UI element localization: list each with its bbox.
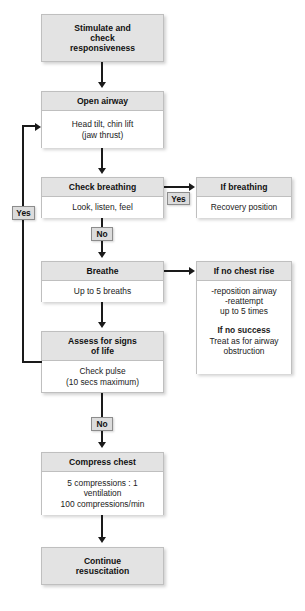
node-if-no-chest-rise-body: -reposition airway -reattempt up to 5 ti… (197, 281, 291, 374)
node-assess-signs-header: Assess for signs of life (42, 332, 163, 361)
node-if-no-chest-rise-header: If no chest rise (197, 262, 291, 281)
node-assess-signs-header-line1: Assess for signs (68, 336, 137, 346)
node-stimulate-text: Stimulate and check responsiveness (66, 23, 139, 54)
arrowhead-assess-signs (98, 322, 106, 328)
connector-open-airway-to-check-breathing (101, 148, 103, 170)
loop-segment-bottom (22, 361, 42, 363)
node-assess-signs-header-line2: of life (91, 346, 114, 356)
node-if-breathing-header: If breathing (197, 178, 291, 197)
node-open-airway-body: Head tilt, chin lift (jaw thrust) (42, 111, 163, 148)
connector-breathe-to-assess-signs (101, 302, 103, 324)
node-if-no-chest-rise[interactable]: If no chest rise -reposition airway -rea… (196, 261, 292, 374)
no-success-actions: If no success Treat as for airway obstru… (197, 325, 291, 356)
node-check-breathing-line1: Look, listen, feel (72, 202, 133, 212)
node-check-breathing-header: Check breathing (42, 178, 163, 197)
connector-assess-signs-to-compress-upper (101, 393, 103, 403)
node-breathe-header: Breathe (42, 262, 163, 281)
loop-segment-top (22, 125, 36, 127)
node-stimulate-line3: responsiveness (70, 43, 135, 53)
edge-label-no-signs-of-life: No (91, 417, 113, 431)
node-open-airway-line2: (jaw thrust) (82, 130, 123, 140)
no-chest-rise-line3: up to 5 times (220, 306, 268, 316)
node-continue-text: Continue resuscitation (76, 556, 130, 577)
node-open-airway-line1: Head tilt, chin lift (72, 119, 133, 129)
loop-segment-vertical (22, 125, 24, 363)
node-compress-chest-line3: 100 compressions/min (61, 499, 145, 509)
arrowhead-loop-to-open-airway (35, 123, 41, 131)
edge-label-no-breathing: No (91, 227, 113, 241)
node-if-breathing[interactable]: If breathing Recovery position (196, 177, 292, 218)
node-open-airway-header: Open airway (42, 92, 163, 111)
no-chest-rise-actions: -reposition airway -reattempt up to 5 ti… (197, 286, 291, 316)
node-breathe[interactable]: Breathe Up to 5 breaths (41, 261, 164, 302)
no-success-line2: obstruction (224, 346, 265, 356)
no-success-line1: Treat as for airway (209, 336, 278, 346)
arrowhead-check-breathing (98, 168, 106, 174)
connector-stimulate-to-open-airway (101, 62, 103, 84)
node-compress-chest-body: 5 compressions : 1 ventilation 100 compr… (42, 472, 163, 515)
arrowhead-open-airway (98, 82, 106, 88)
arrowhead-if-no-chest-rise (189, 267, 195, 275)
arrowhead-breathe (98, 252, 106, 258)
no-chest-rise-line1: -reposition airway (211, 286, 277, 296)
no-chest-rise-line2: -reattempt (225, 296, 263, 306)
node-stimulate-line1: Stimulate and (74, 23, 130, 33)
node-assess-signs-line1: Check pulse (79, 366, 125, 376)
arrowhead-continue-resuscitation (98, 537, 106, 543)
node-breathe-body: Up to 5 breaths (42, 281, 163, 302)
node-compress-chest-line2: ventilation (84, 488, 122, 498)
node-stimulate-line2: check (90, 33, 114, 43)
node-if-breathing-line1: Recovery position (211, 202, 278, 212)
node-assess-signs-body: Check pulse (10 secs maximum) (42, 361, 163, 392)
flowchart-canvas: Stimulate and check responsiveness Open … (0, 0, 305, 611)
node-breathe-line1: Up to 5 breaths (74, 286, 131, 296)
no-success-subheader: If no success (197, 325, 291, 335)
node-compress-chest[interactable]: Compress chest 5 compressions : 1 ventil… (41, 452, 164, 515)
edge-label-yes-signs-of-life: Yes (12, 206, 35, 220)
arrowhead-if-breathing (189, 183, 195, 191)
node-if-breathing-body: Recovery position (197, 197, 291, 218)
node-check-breathing[interactable]: Check breathing Look, listen, feel (41, 177, 164, 218)
connector-breathe-to-if-no-chest-rise (164, 270, 190, 272)
node-stimulate-check-responsiveness[interactable]: Stimulate and check responsiveness (41, 14, 164, 62)
node-continue-line2: resuscitation (76, 566, 130, 576)
node-assess-signs-of-life[interactable]: Assess for signs of life Check pulse (10… (41, 331, 164, 393)
node-assess-signs-line2: (10 secs maximum) (66, 377, 139, 387)
node-open-airway[interactable]: Open airway Head tilt, chin lift (jaw th… (41, 91, 164, 148)
connector-compress-to-continue (101, 515, 103, 539)
node-compress-chest-header: Compress chest (42, 453, 163, 472)
connector-check-breathing-to-if-breathing (164, 186, 190, 188)
node-compress-chest-line1: 5 compressions : 1 (67, 478, 137, 488)
connector-assess-signs-to-compress-mid (101, 403, 103, 417)
node-continue-resuscitation[interactable]: Continue resuscitation (41, 547, 164, 585)
edge-label-yes-breathing: Yes (167, 192, 190, 205)
node-check-breathing-body: Look, listen, feel (42, 197, 163, 218)
node-continue-line1: Continue (84, 556, 121, 566)
arrowhead-compress-chest (98, 442, 106, 448)
